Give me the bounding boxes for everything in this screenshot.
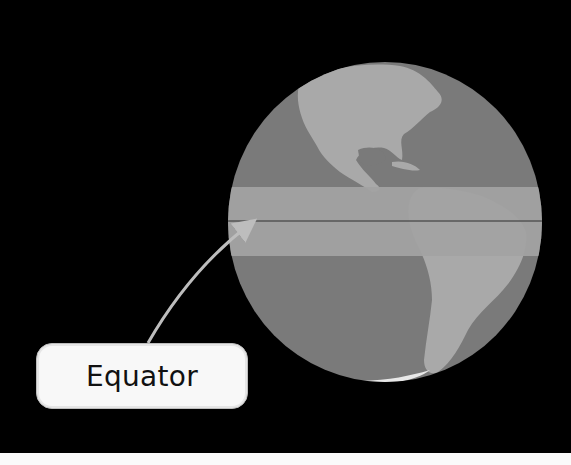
globe xyxy=(220,60,550,390)
equator-label-box: Equator xyxy=(36,343,248,409)
equator-label: Equator xyxy=(86,360,198,393)
diagram-canvas: Equator xyxy=(0,0,571,453)
bottom-margin xyxy=(0,453,571,465)
